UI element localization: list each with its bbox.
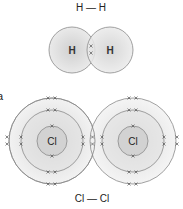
cl-symbol-left: Cl	[47, 136, 56, 147]
h2-formula: H — H	[76, 2, 106, 13]
h-symbol-right: H	[106, 45, 113, 56]
covalent-bond-diagram: a H — H H H Cl Cl	[0, 0, 183, 209]
cl2-formula: Cl — Cl	[75, 193, 109, 204]
hydrogen-molecule: H — H H H	[49, 2, 133, 73]
figure-label: a	[0, 90, 4, 102]
chlorine-molecule: Cl Cl	[6, 97, 179, 205]
cl-symbol-right: Cl	[128, 136, 137, 147]
h-symbol-left: H	[68, 45, 75, 56]
